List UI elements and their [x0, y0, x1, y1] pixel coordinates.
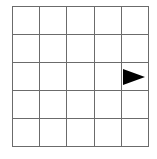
grid-board — [12, 6, 149, 147]
grid-cell[interactable] — [39, 6, 66, 34]
grid-cell[interactable] — [12, 118, 39, 146]
grid-cell[interactable] — [121, 118, 148, 146]
grid-cell[interactable] — [121, 90, 148, 118]
grid-cell[interactable] — [12, 62, 39, 90]
grid-cell[interactable] — [94, 34, 121, 62]
grid-cell[interactable] — [121, 6, 148, 34]
grid-cell[interactable] — [94, 90, 121, 118]
grid-cell[interactable] — [66, 34, 93, 62]
grid-cell[interactable] — [94, 118, 121, 146]
grid-cell[interactable] — [12, 34, 39, 62]
grid-cell[interactable] — [66, 118, 93, 146]
grid-cell[interactable] — [66, 6, 93, 34]
grid-cell[interactable] — [66, 90, 93, 118]
grid-cell[interactable] — [39, 90, 66, 118]
grid-cell[interactable] — [39, 34, 66, 62]
grid-cell[interactable] — [12, 6, 39, 34]
grid-cell[interactable] — [121, 34, 148, 62]
grid-cell[interactable] — [94, 62, 121, 90]
grid-cell[interactable] — [12, 90, 39, 118]
grid-cell[interactable] — [39, 118, 66, 146]
grid-cell[interactable] — [66, 62, 93, 90]
grid-cell[interactable] — [39, 62, 66, 90]
grid-cell[interactable] — [94, 6, 121, 34]
grid-cell[interactable] — [121, 62, 148, 90]
agent-arrow-right-icon — [123, 69, 145, 85]
